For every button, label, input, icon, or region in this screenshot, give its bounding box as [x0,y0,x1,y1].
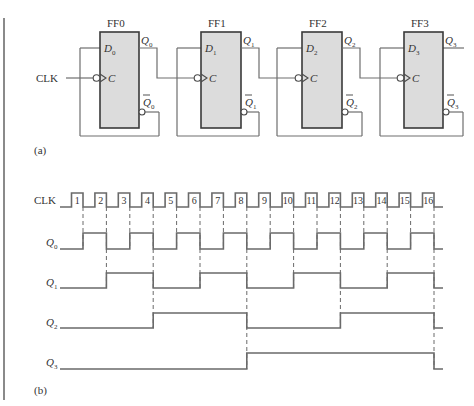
q1-to-ff2-clock-wire [241,48,296,78]
ff0-d-sub: 0 [112,49,116,57]
clock-pulse-number: 4 [145,195,150,206]
ff3-c-pin: C [412,72,420,84]
ff2-q-label: Q [344,34,352,46]
circuit-diagram: CLK FF0 C D0 Q0 Q0 FF1 [34,17,464,157]
ff0-qbar-bubble-icon [139,109,145,115]
ff0-qbar-sub: 0 [151,103,155,111]
signal-label-q0-sub: 0 [54,243,58,251]
ff1-q-label: Q [243,34,251,46]
counter-figure: CLK FF0 C D0 Q0 Q0 FF1 [0,0,474,406]
ff3-label: FF3 [411,17,429,29]
part-a-label: (a) [34,144,47,157]
ff0-qbar-label: Q [143,96,151,108]
ff2-d-sub: 2 [314,49,318,57]
flip-flop-ff2: FF2 C D2 Q2 Q2 [277,17,362,136]
signal-label-q2: Q [46,316,54,328]
signal-label-q3: Q [46,356,54,368]
flip-flop-ff0: FF0 C D0 Q0 Q0 [80,17,159,136]
ff1-qbar-sub: 1 [253,103,257,111]
signal-label-q0: Q [46,236,54,248]
svg-text:Q2: Q2 [46,316,58,331]
ff2-qbar-bubble-icon [342,109,348,115]
ff1-d-sub: 1 [213,49,217,57]
clock-pulse-number: 13 [353,195,363,206]
ff2-qbar-sub: 2 [354,103,358,111]
ff0-label: FF0 [107,17,125,29]
clock-pulse-number: 8 [239,195,244,206]
q0-to-ff1-clock-wire [139,48,195,78]
timing-diagram: CLK Q0 Q1 Q2 Q3 12345678910111213141516 … [34,193,443,397]
part-b-label: (b) [34,384,47,397]
flip-flop-ff3: FF3 C D3 Q3 Q3 [380,17,464,136]
clock-pulse-number: 11 [306,195,316,206]
signal-label-q2-sub: 2 [54,323,58,331]
ff1-clock-bubble-icon [194,75,201,82]
clock-pulse-number: 9 [262,195,267,206]
ff3-qbar-label: Q [447,96,455,108]
flip-flop-ff1: FF1 C D1 Q1 Q1 [177,17,259,136]
ff2-c-pin: C [310,72,318,84]
ff1-d-pin: D [204,42,213,54]
svg-text:Q1: Q1 [46,276,58,291]
waveform-q1 [60,273,443,288]
svg-text:Q2: Q2 [346,96,358,111]
ff3-d-pin: D [407,42,416,54]
clock-pulse-number: 6 [192,195,197,206]
clock-pulse-number: 15 [400,195,410,206]
ff3-q-sub: 3 [453,41,457,49]
signal-label-q3-sub: 3 [54,363,58,371]
ff3-q-label: Q [445,34,453,46]
waveform-q2 [60,313,443,328]
ff3-qbar-sub: 3 [455,103,459,111]
ff2-label: FF2 [309,17,327,29]
ff3-d-sub: 3 [416,49,420,57]
ff2-qbar-label: Q [346,96,354,108]
signal-label-q1: Q [46,276,54,288]
ff0-q-label: Q [141,34,149,46]
ff0-c-pin: C [108,72,116,84]
svg-text:Q3: Q3 [46,356,58,371]
ff3-clock-bubble-icon [397,75,404,82]
svg-text:Q0: Q0 [46,236,58,251]
clock-pulse-number: 14 [376,195,386,206]
clock-pulse-number: 2 [98,195,103,206]
svg-text:Q0: Q0 [143,96,155,111]
clock-pulse-number: 16 [423,195,433,206]
svg-text:Q1: Q1 [245,96,257,111]
clock-pulse-number: 1 [75,195,80,206]
ff3-qbar-bubble-icon [443,109,449,115]
svg-text:Q2: Q2 [344,34,356,49]
clock-pulse-number: 7 [215,195,220,206]
ff1-c-pin: C [209,72,217,84]
ff1-qbar-label: Q [245,96,253,108]
svg-text:Q3: Q3 [447,96,459,111]
clock-pulse-number: 10 [283,195,293,206]
ff2-d-pin: D [305,42,314,54]
ff2-clock-bubble-icon [295,75,302,82]
svg-text:Q0: Q0 [141,34,153,49]
signal-label-q1-sub: 1 [54,283,58,291]
ff0-d-pin: D [103,42,112,54]
clock-pulse-number: 3 [122,195,127,206]
ff0-clock-bubble-icon [93,75,100,82]
clock-pulse-number: 5 [168,195,173,206]
q2-to-ff3-clock-wire [342,48,398,78]
svg-text:Q1: Q1 [243,34,255,49]
signal-label-clk: CLK [34,194,56,206]
clk-input-label: CLK [36,72,58,84]
ff1-qbar-bubble-icon [241,109,247,115]
waveform-q3 [60,353,443,369]
clock-pulse-number: 12 [330,195,340,206]
svg-text:Q3: Q3 [445,34,457,49]
waveform-q0 [60,233,443,249]
ff1-label: FF1 [208,17,226,29]
clock-pulse-numbers: 12345678910111213141516 [75,195,434,206]
